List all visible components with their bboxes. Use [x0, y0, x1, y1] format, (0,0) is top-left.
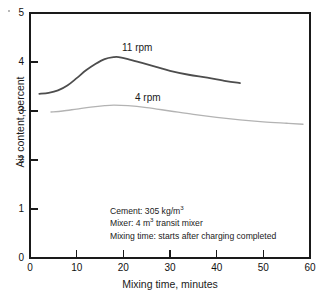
- annotation-mixer-suffix: transit mixer: [154, 218, 203, 228]
- annotation-line-mixer: Mixer: 4 m3 transit mixer: [110, 217, 276, 229]
- annotation-cement-exponent: 3: [180, 204, 183, 211]
- x-axis-title: Mixing time, minutes: [30, 278, 310, 290]
- y-tick-label-1: 1: [8, 203, 24, 214]
- x-tick-label-10: 10: [65, 262, 89, 273]
- annotation-cement-prefix: Cement: 305 kg/m: [110, 206, 180, 216]
- chart-figure: 0 1 2 3 4 5 0 10 20 30 40 50 60 Air cont…: [0, 0, 321, 297]
- annotation-line-cement: Cement: 305 kg/m3: [110, 205, 276, 217]
- chart-annotation-block: Cement: 305 kg/m3 Mixer: 4 m3 transit mi…: [110, 205, 276, 242]
- x-tick-label-50: 50: [251, 262, 275, 273]
- x-tick-label-0: 0: [18, 262, 42, 273]
- y-tick-label-5: 5: [8, 7, 24, 18]
- x-tick-label-60: 60: [298, 262, 321, 273]
- x-tick-label-20: 20: [111, 262, 135, 273]
- annotation-mixer-prefix: Mixer: 4 m: [110, 218, 150, 228]
- series-label-11-rpm: 11 rpm: [122, 42, 152, 53]
- x-tick-label-30: 30: [158, 262, 182, 273]
- plot-area: [0, 0, 321, 297]
- y-axis-title: Air content, percent: [14, 47, 26, 197]
- x-tick-label-40: 40: [205, 262, 229, 273]
- annotation-line-mixing-time: Mixing time: starts after charging compl…: [110, 230, 276, 242]
- series-label-4-rpm: 4 rpm: [135, 92, 161, 103]
